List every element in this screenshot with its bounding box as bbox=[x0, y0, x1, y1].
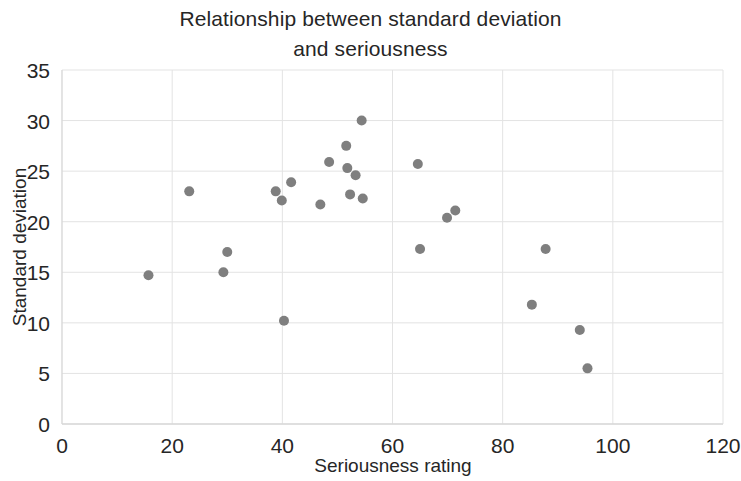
data-point bbox=[442, 213, 452, 223]
data-point bbox=[415, 244, 425, 254]
y-tick-label: 30 bbox=[27, 110, 50, 133]
y-axis-tick-labels: 05101520253035 bbox=[27, 59, 50, 436]
y-tick-label: 15 bbox=[27, 261, 50, 284]
y-tick-label: 25 bbox=[27, 160, 50, 183]
data-point bbox=[184, 186, 194, 196]
y-tick-label: 20 bbox=[27, 211, 50, 234]
x-tick-label: 40 bbox=[271, 434, 294, 457]
data-points bbox=[143, 116, 592, 374]
data-point bbox=[324, 157, 334, 167]
data-point bbox=[342, 163, 352, 173]
y-axis-title: Standard deviation bbox=[9, 168, 30, 326]
x-axis-tick-labels: 020406080100120 bbox=[56, 434, 740, 457]
data-point bbox=[450, 206, 460, 216]
chart-figure: Relationship between standard deviationa… bbox=[0, 0, 741, 481]
x-tick-label: 0 bbox=[56, 434, 68, 457]
gridlines bbox=[62, 70, 723, 424]
scatter-plot: 020406080100120 05101520253035 Seriousne… bbox=[0, 0, 741, 481]
x-tick-label: 20 bbox=[160, 434, 183, 457]
data-point bbox=[541, 244, 551, 254]
data-point bbox=[413, 159, 423, 169]
x-tick-label: 100 bbox=[595, 434, 630, 457]
y-tick-label: 0 bbox=[38, 413, 50, 436]
y-tick-label: 5 bbox=[38, 362, 50, 385]
data-point bbox=[286, 177, 296, 187]
data-point bbox=[218, 267, 228, 277]
data-point bbox=[357, 116, 367, 126]
data-point bbox=[279, 316, 289, 326]
data-point bbox=[277, 195, 287, 205]
x-tick-label: 60 bbox=[381, 434, 404, 457]
data-point bbox=[315, 200, 325, 210]
data-point bbox=[341, 141, 351, 151]
data-point bbox=[358, 193, 368, 203]
data-point bbox=[351, 170, 361, 180]
x-tick-label: 120 bbox=[705, 434, 740, 457]
data-point bbox=[143, 270, 153, 280]
x-tick-label: 80 bbox=[491, 434, 514, 457]
data-point bbox=[582, 363, 592, 373]
data-point bbox=[345, 189, 355, 199]
y-tick-label: 35 bbox=[27, 59, 50, 82]
x-axis-title: Seriousness rating bbox=[314, 455, 471, 476]
data-point bbox=[271, 186, 281, 196]
data-point bbox=[575, 325, 585, 335]
y-tick-label: 10 bbox=[27, 312, 50, 335]
data-point bbox=[222, 247, 232, 257]
data-point bbox=[527, 300, 537, 310]
